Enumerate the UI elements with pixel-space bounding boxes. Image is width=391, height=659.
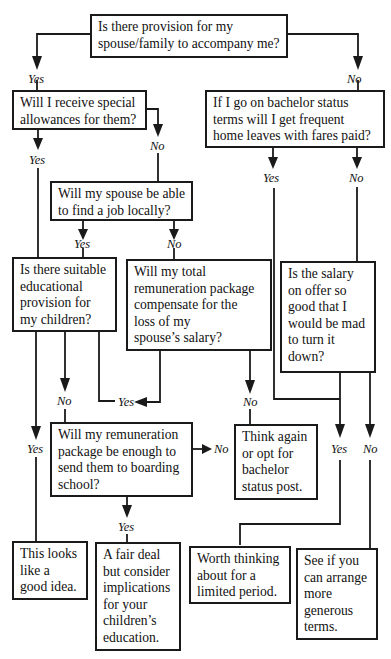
node-text: about for a [197,568,283,585]
question-boarding: Will my remuneration package be enough t… [50,422,193,497]
arrowhead [60,378,70,392]
question-bachelor: If I go on bachelor status terms will I … [205,90,385,148]
node-text: This looks [20,546,80,563]
connector-allowances-no [146,109,158,126]
node-text: terms. [304,619,370,636]
node-text: limited period. [197,584,283,601]
node-text: to turn it [288,332,368,349]
node-text: good that I [288,299,368,316]
node-text: generous [304,603,370,620]
node-text: can arrange [304,570,370,587]
question-salary: Is the salary on offer so good that I wo… [280,261,376,373]
question-provision: Is there provision for my spouse/family … [90,14,288,58]
node-text: package be enough to [58,444,185,461]
node-text: to find a job locally? [58,203,185,220]
node-text: provision for [20,295,109,312]
outcome-think-again: Think again or opt for bachelor status p… [234,424,318,500]
node-text: See if you [304,553,370,570]
node-text: send them to boarding [58,460,185,477]
node-text: down? [288,349,368,366]
connector-education-merge [99,331,115,401]
outcome-good-idea: This looks like a good idea. [12,541,88,600]
node-text: would be mad [288,316,368,333]
label-spouse-job-yes: Yes [74,237,90,251]
node-text: terms will I get frequent [213,112,377,129]
node-text: Will my remuneration [58,427,185,444]
node-text: Is there suitable [20,262,109,279]
label-allowances-yes: Yes [29,153,45,167]
arrowhead [134,397,147,407]
node-text: home leaves with fares paid? [213,128,377,145]
node-text: or opt for [242,446,310,463]
node-text: on offer so [288,283,368,300]
node-text: status post. [242,479,310,496]
node-text: spouse/family to accompany me? [98,36,280,53]
node-text: Is there provision for my [98,19,280,36]
node-text: school? [58,477,185,494]
connector-compensate-yes [146,350,160,402]
outcome-generous-terms: See if you can arrange more generous ter… [296,548,378,640]
arrowhead [365,424,375,438]
label-provision-no: No [347,72,362,86]
arrowhead [353,56,363,70]
label-compensate-no: No [243,395,258,409]
node-text: spouse’s salary? [134,330,264,347]
node-text: Worth thinking [197,551,283,568]
arrowhead [33,138,43,150]
node-text: Will I receive special [20,95,139,112]
connector-provision-yes [37,34,90,58]
node-text: more [304,586,370,603]
arrowhead [268,157,278,169]
node-text: Is the salary [288,266,368,283]
label-provision-yes: Yes [28,72,44,86]
arrowhead [202,444,212,454]
label-allowances-no: No [150,139,165,153]
arrowhead [245,380,255,394]
arrowhead [31,426,41,440]
connector-provision-no [287,34,358,58]
outcome-worth-thinking: Worth thinking about for a limited perio… [189,546,291,604]
arrowhead [352,157,362,169]
node-text: A fair deal [103,547,173,564]
arrowhead [32,56,42,70]
label-salary-no: No [363,442,378,456]
node-text: Will my spouse be able [58,186,185,203]
label-education-yes: Yes [27,442,43,456]
label-salary-yes: Yes [331,442,347,456]
question-spouse-job: Will my spouse be able to find a job loc… [50,181,193,221]
node-text: Think again [242,429,310,446]
node-text: educational [20,279,109,296]
node-text: my children? [20,312,109,329]
node-text: remuneration package [134,281,264,298]
label-boarding-no: No [214,442,229,456]
question-allowances: Will I receive special allowances for th… [12,90,147,130]
outcome-fair-deal: A fair deal but consider implications fo… [95,542,181,651]
node-text: If I go on bachelor status [213,95,377,112]
node-text: allowances for them? [20,112,139,129]
node-text: bachelor [242,462,310,479]
arrowhead [153,124,163,137]
question-education: Is there suitable educational provision … [12,257,117,332]
label-compensate-yes: Yes [118,395,134,409]
node-text: education. [103,630,173,647]
label-bachelor-no: No [349,171,364,185]
node-text: like a [20,563,80,580]
node-text: for your [103,597,173,614]
node-text: Will my total [134,264,264,281]
question-compensate: Will my total remuneration package compe… [126,259,272,351]
label-boarding-yes: Yes [118,520,134,534]
arrowhead [335,424,345,438]
label-education-no: No [57,394,72,408]
label-spouse-job-no: No [167,237,182,251]
node-text: but consider [103,564,173,581]
node-text: loss of my [134,314,264,331]
node-text: implications [103,580,173,597]
label-bachelor-yes: Yes [263,171,279,185]
node-text: compensate for the [134,297,264,314]
node-text: good idea. [20,579,80,596]
arrowhead [122,505,132,518]
node-text: children’s [103,613,173,630]
